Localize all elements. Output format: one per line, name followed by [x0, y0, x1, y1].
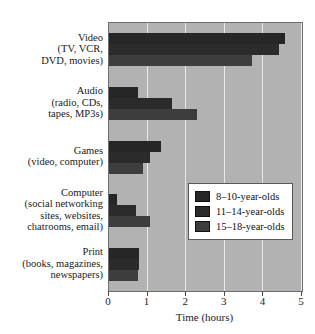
chart-figure: Video(TV, VCR,DVD, movies)Audio(radio, C… — [0, 0, 315, 334]
category-label-main: Computer — [0, 187, 103, 198]
bar — [109, 270, 138, 281]
category-label-detail: tapes, MP3s) — [0, 108, 103, 119]
x-tick-label: 4 — [252, 295, 272, 307]
bar — [109, 152, 150, 163]
legend-item: 11–14-year-olds — [195, 204, 285, 219]
bar-row — [109, 163, 302, 174]
bar — [109, 259, 139, 270]
legend-label: 11–14-year-olds — [216, 206, 284, 217]
bar — [109, 216, 150, 227]
bar-row — [109, 109, 302, 120]
bar-row — [109, 259, 302, 270]
category-label-detail: chatrooms, email) — [0, 221, 103, 232]
bar — [109, 163, 143, 174]
category-label: Video(TV, VCR,DVD, movies) — [0, 32, 103, 66]
category-label: Audio(radio, CDs,tapes, MP3s) — [0, 85, 103, 119]
bar — [109, 141, 161, 152]
bar — [109, 194, 117, 205]
x-tick-label: 5 — [291, 295, 311, 307]
legend-swatch — [195, 221, 210, 232]
category-label-main: Video — [0, 32, 103, 43]
category-label: Print(books, magazines,newspapers) — [0, 246, 103, 280]
bar — [109, 33, 285, 44]
bar-row — [109, 152, 302, 163]
x-tick-label: 1 — [137, 295, 157, 307]
bar-row — [109, 33, 302, 44]
bar-row — [109, 270, 302, 281]
bar-row — [109, 55, 302, 66]
legend-swatch — [195, 206, 210, 217]
bar-row — [109, 248, 302, 259]
category-label-detail: (video, computer) — [0, 156, 103, 167]
category-label-detail: (radio, CDs, — [0, 97, 103, 108]
bar — [109, 44, 279, 55]
category-label-detail: newspapers) — [0, 269, 103, 280]
category-label-detail: (social networking — [0, 198, 103, 209]
bar — [109, 87, 138, 98]
category-label-main: Audio — [0, 85, 103, 96]
legend-label: 15–18-year-olds — [216, 221, 285, 232]
legend-label: 8–10-year-olds — [216, 191, 279, 202]
bar — [109, 109, 197, 120]
bar-row — [109, 87, 302, 98]
bar — [109, 205, 136, 216]
bar-row — [109, 44, 302, 55]
category-label-detail: (books, magazines, — [0, 258, 103, 269]
category-label-detail: sites, websites, — [0, 210, 103, 221]
x-axis-title: Time (hours) — [108, 311, 301, 323]
bar-row — [109, 141, 302, 152]
x-tick-label: 0 — [98, 295, 118, 307]
legend-item: 15–18-year-olds — [195, 219, 285, 234]
bar-row — [109, 98, 302, 109]
bar — [109, 98, 172, 109]
legend-item: 8–10-year-olds — [195, 189, 285, 204]
x-tick-label: 2 — [175, 295, 195, 307]
plot-area — [108, 22, 303, 292]
category-label-detail: DVD, movies) — [0, 55, 103, 66]
category-label-main: Print — [0, 246, 103, 257]
category-label: Computer(social networkingsites, website… — [0, 187, 103, 233]
category-label-detail: (TV, VCR, — [0, 43, 103, 54]
category-label: Games(video, computer) — [0, 145, 103, 168]
x-tick-label: 3 — [214, 295, 234, 307]
bar — [109, 248, 139, 259]
legend: 8–10-year-olds11–14-year-olds15–18-year-… — [188, 183, 293, 240]
legend-swatch — [195, 191, 210, 202]
bar — [109, 55, 252, 66]
category-label-main: Games — [0, 145, 103, 156]
